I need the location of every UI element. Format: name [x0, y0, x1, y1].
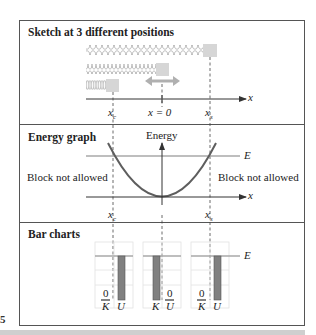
bar-K-x0 — [153, 256, 160, 300]
left-forbidden-region-label: Block not allowed — [27, 171, 108, 183]
right-forbidden-region-label: Block not allowed — [218, 171, 299, 183]
bar1-K-zero: 0 — [103, 287, 109, 299]
bottom-bar — [0, 330, 305, 335]
bar-U-xs — [214, 256, 221, 300]
bar2-U-zero: 0 — [167, 287, 173, 299]
bar-U-xc — [118, 256, 125, 300]
diagram-graphics — [0, 0, 316, 335]
bar3-U-label: U — [213, 300, 221, 312]
spring-equilibrium — [86, 63, 169, 76]
energy-label-xc: xc — [108, 208, 116, 223]
double-arrow-icon — [145, 76, 180, 86]
bar1-K-label: K — [102, 300, 109, 312]
bars-energy-label: E — [244, 249, 251, 261]
spring-compressed — [86, 79, 119, 92]
bar2-U-label: U — [166, 300, 174, 312]
bar3-K-label: K — [198, 300, 205, 312]
spring-stretched — [86, 44, 217, 57]
label-x0: x = 0 — [148, 106, 171, 118]
energy-y-axis-label: Energy — [146, 129, 178, 141]
page-number-fragment: 5 — [0, 313, 6, 325]
label-xc: xc — [108, 106, 116, 121]
label-xs: xs — [205, 106, 213, 121]
energy-label-xs: xs — [205, 208, 213, 223]
energy-x-axis-label: x — [248, 189, 253, 201]
energy-line-label: E — [244, 149, 251, 161]
bar1-U-label: U — [117, 300, 125, 312]
sketch-x-axis-label: x — [248, 91, 253, 103]
bar2-K-label: K — [152, 300, 159, 312]
bar3-K-zero: 0 — [199, 287, 205, 299]
bar-chart-grids — [95, 242, 229, 308]
